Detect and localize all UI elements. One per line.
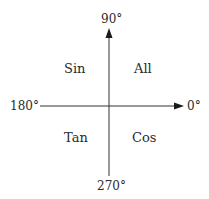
quadrant-label-cos: Cos	[132, 131, 156, 145]
right-arrow-icon	[174, 103, 184, 110]
label-270-degrees: 270°	[97, 179, 126, 193]
quadrant-label-tan: Tan	[64, 131, 88, 145]
label-90-degrees: 90°	[101, 12, 122, 26]
label-0-degrees: 0°	[187, 99, 201, 113]
up-arrow-icon	[106, 28, 113, 38]
label-180-degrees: 180°	[10, 99, 39, 113]
quadrant-label-sin: Sin	[64, 62, 85, 76]
quadrant-label-all: All	[134, 62, 152, 76]
